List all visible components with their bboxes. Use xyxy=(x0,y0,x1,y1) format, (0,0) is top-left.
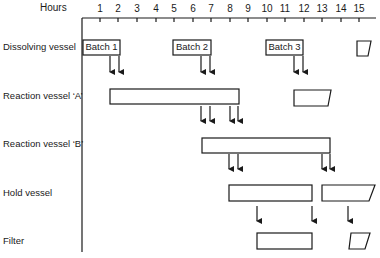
row-label-hold-vessel: Hold vessel xyxy=(3,187,52,198)
tick-label-15: 15 xyxy=(353,3,364,14)
tick-label-10: 10 xyxy=(261,3,272,14)
batch-3-label: Batch 3 xyxy=(266,40,303,54)
hold-vessel-bar-2 xyxy=(322,185,375,201)
reaction-a-bar-2 xyxy=(294,90,331,106)
gantt-diagram xyxy=(0,0,380,258)
tick-label-14: 14 xyxy=(335,3,346,14)
tick-label-4: 4 xyxy=(153,3,159,14)
tick-label-7: 7 xyxy=(208,3,214,14)
tick-label-2: 2 xyxy=(115,3,121,14)
filter-bar-1 xyxy=(257,233,312,249)
batch-2-label: Batch 2 xyxy=(173,40,211,54)
row-label-dissolving-vessel: Dissolving vessel xyxy=(3,41,76,52)
batch-4-partial-box xyxy=(357,41,371,56)
tick-label-9: 9 xyxy=(245,3,251,14)
axis-title: Hours xyxy=(40,2,67,13)
row-label-reaction-vessel-b: Reaction vessel ‘B’ xyxy=(3,138,83,149)
tick-label-1: 1 xyxy=(97,3,103,14)
row-label-filter: Filter xyxy=(3,235,24,246)
tick-label-6: 6 xyxy=(190,3,196,14)
tick-label-3: 3 xyxy=(134,3,140,14)
tick-label-5: 5 xyxy=(171,3,177,14)
batch-1-label: Batch 1 xyxy=(83,40,120,54)
tick-label-13: 13 xyxy=(316,3,327,14)
row-label-reaction-vessel-a: Reaction vessel ‘A’ xyxy=(3,90,83,101)
reaction-a-bar-1 xyxy=(110,89,239,104)
tick-label-12: 12 xyxy=(298,3,309,14)
hold-vessel-bar-1 xyxy=(229,185,312,201)
tick-label-11: 11 xyxy=(280,3,290,14)
filter-bar-2 xyxy=(349,233,370,249)
reaction-b-bar xyxy=(202,138,330,153)
tick-label-8: 8 xyxy=(227,3,233,14)
